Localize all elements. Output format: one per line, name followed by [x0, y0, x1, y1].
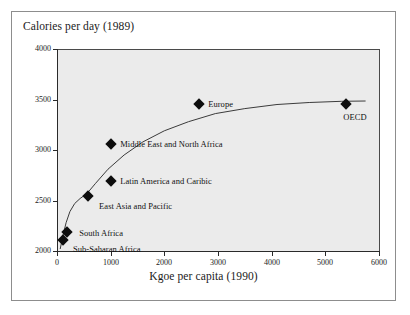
x-tick-mark	[379, 252, 380, 256]
x-tick-label: 5000	[305, 258, 345, 267]
x-tick-label: 4000	[252, 258, 292, 267]
x-tick-label: 3000	[198, 258, 238, 267]
x-tick-mark	[325, 252, 326, 256]
trend-line-svg	[57, 50, 379, 252]
data-point-label: Europe	[208, 99, 233, 109]
x-tick-mark	[57, 252, 58, 256]
data-point-label: East Asia and Pacific	[99, 201, 172, 211]
trend-line	[60, 101, 365, 249]
data-point-label: Latin America and Caribic	[120, 176, 212, 186]
x-tick-label: 0	[37, 258, 77, 267]
y-tick-mark	[53, 201, 57, 202]
y-tick-mark	[53, 49, 57, 50]
y-axis-line	[57, 49, 58, 252]
figure-card: Calories per day (1989) 2000250030003500…	[11, 11, 396, 301]
plot-area	[57, 49, 380, 252]
x-tick-label: 2000	[144, 258, 184, 267]
x-tick-mark	[164, 252, 165, 256]
x-tick-mark	[218, 252, 219, 256]
x-tick-label: 1000	[91, 258, 131, 267]
y-tick-label: 4000	[23, 44, 51, 53]
data-point-label: OECD	[343, 112, 366, 122]
y-tick-mark	[53, 150, 57, 151]
data-point-label: South Africa	[79, 228, 123, 238]
x-axis-title: Kgoe per capita (1990)	[12, 270, 395, 282]
y-tick-label: 3000	[23, 145, 51, 154]
y-axis-title: Calories per day (1989)	[23, 20, 134, 32]
data-point-label: Sub-Saharan Africa	[73, 244, 141, 254]
y-tick-label: 2500	[23, 196, 51, 205]
data-point-label: Middle East and North Africa	[120, 139, 222, 149]
x-tick-label: 6000	[359, 258, 399, 267]
x-tick-mark	[272, 252, 273, 256]
y-tick-mark	[53, 100, 57, 101]
y-tick-label: 2000	[23, 246, 51, 255]
y-tick-label: 3500	[23, 95, 51, 104]
